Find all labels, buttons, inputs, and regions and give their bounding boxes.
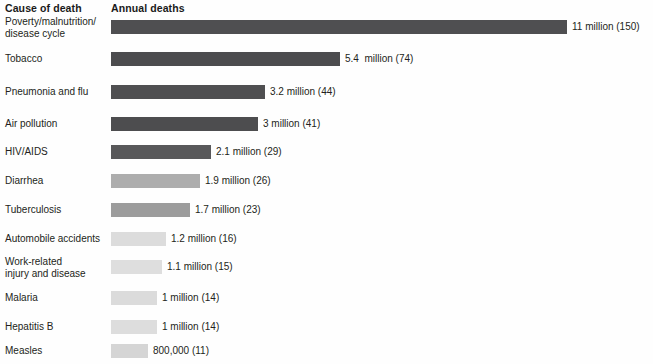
bar-value-label: 11 million (150) bbox=[572, 20, 640, 34]
bar-category-label: Tuberculosis bbox=[5, 204, 109, 216]
bar-value-label: 1.1 million (15) bbox=[167, 260, 233, 274]
bar bbox=[111, 85, 265, 99]
bar bbox=[111, 117, 258, 131]
bar-row: Malaria1 million (14) bbox=[0, 291, 653, 319]
bar-category-label: Hepatitis B bbox=[5, 321, 109, 333]
bar-value-label: 3.2 million (44) bbox=[270, 85, 336, 99]
bar-category-label: Tobacco bbox=[5, 53, 109, 65]
bar-chart-figure: Cause of death Annual deaths Poverty/mal… bbox=[0, 0, 653, 364]
bar-category-label: Work-related injury and disease bbox=[5, 256, 109, 279]
bar-value-label: 2.1 million (29) bbox=[216, 145, 282, 159]
bar-category-label: Air pollution bbox=[5, 118, 109, 130]
bar-row: Work-related injury and disease1.1 milli… bbox=[0, 260, 653, 288]
bar-value-label: 5.4 million (74) bbox=[345, 52, 413, 66]
bar-row: Pneumonia and flu3.2 million (44) bbox=[0, 85, 653, 113]
bar bbox=[111, 291, 157, 305]
bar-value-label: 800,000 (11) bbox=[153, 344, 209, 358]
bar-value-label: 3 million (41) bbox=[263, 117, 320, 131]
bar-value-label: 1 million (14) bbox=[162, 320, 219, 334]
bar bbox=[111, 52, 340, 66]
bar bbox=[111, 203, 190, 217]
bar bbox=[111, 20, 567, 34]
bar-row: Tuberculosis1.7 million (23) bbox=[0, 203, 653, 231]
column-header-annual-deaths: Annual deaths bbox=[111, 2, 185, 14]
column-header-cause-of-death: Cause of death bbox=[5, 2, 82, 14]
bar-row: Poverty/malnutrition/ disease cycle11 mi… bbox=[0, 20, 653, 48]
bar-category-label: Pneumonia and flu bbox=[5, 86, 109, 98]
bar-row: Measles800,000 (11) bbox=[0, 344, 653, 364]
bar bbox=[111, 232, 166, 246]
bar-value-label: 1 million (14) bbox=[162, 291, 219, 305]
bar-category-label: Measles bbox=[5, 345, 109, 357]
bar-category-label: Automobile accidents bbox=[5, 233, 109, 245]
bar bbox=[111, 260, 162, 274]
bar bbox=[111, 174, 200, 188]
bar-row: HIV/AIDS2.1 million (29) bbox=[0, 145, 653, 173]
bar-row: Diarrhea1.9 million (26) bbox=[0, 174, 653, 202]
bar-row: Air pollution3 million (41) bbox=[0, 117, 653, 145]
bar-category-label: Poverty/malnutrition/ disease cycle bbox=[5, 16, 109, 39]
bar-row: Tobacco5.4 million (74) bbox=[0, 52, 653, 80]
bar-value-label: 1.9 million (26) bbox=[205, 174, 271, 188]
bar-value-label: 1.7 million (23) bbox=[195, 203, 261, 217]
bar-category-label: Diarrhea bbox=[5, 175, 109, 187]
bar bbox=[111, 145, 211, 159]
bar-category-label: Malaria bbox=[5, 292, 109, 304]
bar-value-label: 1.2 million (16) bbox=[171, 232, 237, 246]
bar bbox=[111, 344, 148, 358]
bar bbox=[111, 320, 157, 334]
bar-category-label: HIV/AIDS bbox=[5, 146, 109, 158]
